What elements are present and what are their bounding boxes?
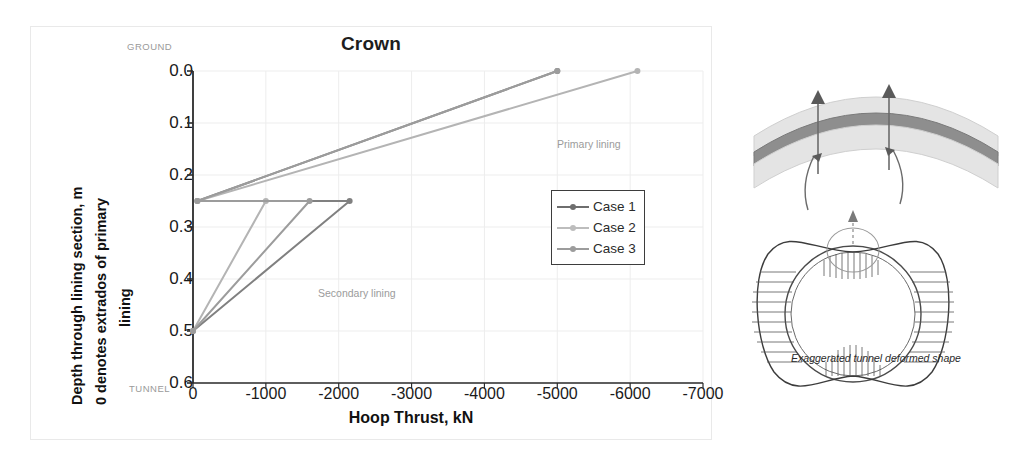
chart-legend[interactable]: Case 1Case 2Case 3 (551, 190, 645, 265)
legend-swatch-icon (556, 200, 590, 214)
legend-label: Case 2 (593, 220, 636, 235)
crown-detail-icon (754, 84, 998, 210)
illustration-caption: Exaggerated tunnel deformed shape (752, 352, 1000, 364)
data-point (190, 328, 196, 334)
data-point (347, 198, 353, 204)
screenshot-root: Crown Depth through lining section, m 0 … (0, 0, 1009, 471)
legend-item-case-2[interactable]: Case 2 (556, 217, 636, 238)
annotation-secondary-lining: Secondary lining (318, 287, 396, 299)
legend-label: Case 1 (593, 199, 636, 214)
tunnel-deformation-illustration (752, 24, 1000, 404)
legend-item-case-3[interactable]: Case 3 (556, 238, 636, 259)
data-point (634, 68, 640, 74)
legend-item-case-1[interactable]: Case 1 (556, 196, 636, 217)
legend-label: Case 3 (593, 241, 636, 256)
annotation-primary-lining: Primary lining (557, 138, 621, 150)
chart-panel: Crown Depth through lining section, m 0 … (30, 26, 712, 440)
data-point (307, 198, 313, 204)
legend-swatch-icon (556, 221, 590, 235)
legend-swatch-icon (556, 242, 590, 256)
data-point (194, 198, 200, 204)
data-point (554, 68, 560, 74)
